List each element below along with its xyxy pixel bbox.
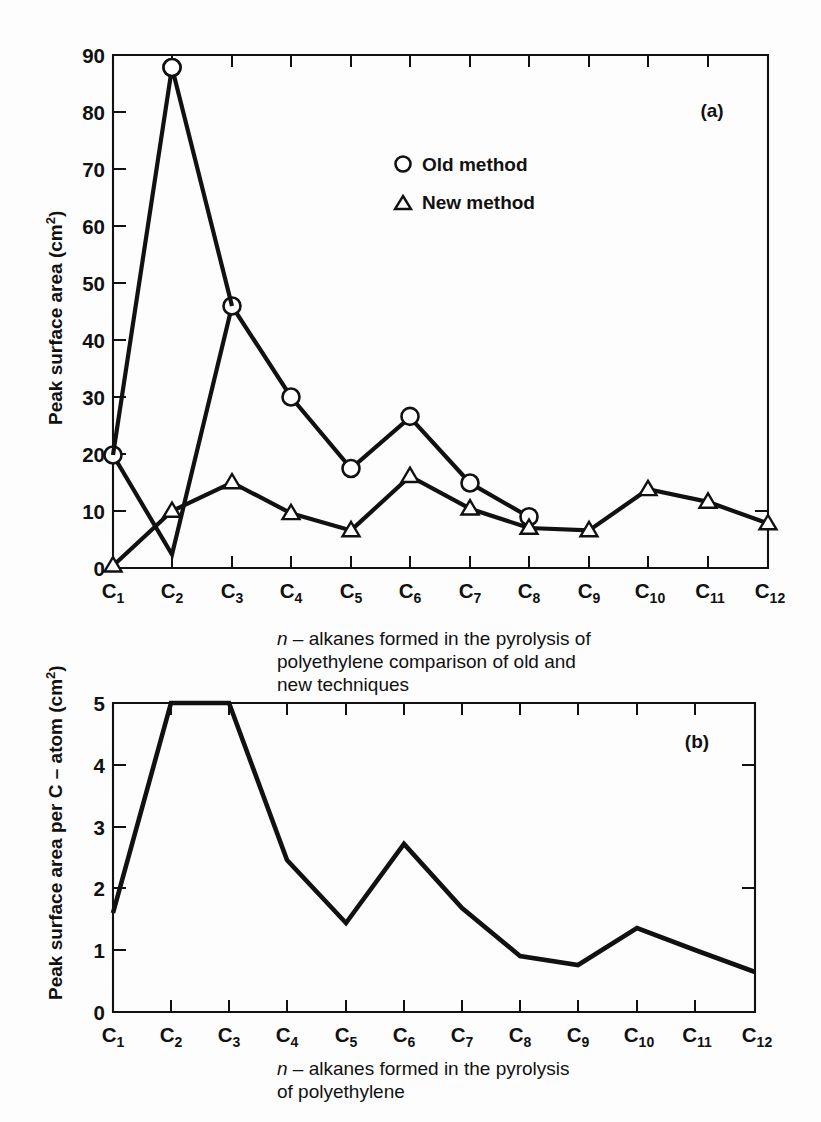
panel-b-y-tick-labels: 0 1 2 3 4 5 [94,692,106,1024]
panel-a-ytick-70: 70 [82,158,105,181]
panel-b-y-ticks [113,703,126,1012]
panel-b-group: 0 1 2 3 4 5 [43,665,772,1102]
panel-b-xtick-c5: C5 [335,1023,358,1050]
panel-b-xtick-c10: C10 [624,1023,655,1050]
panel-b-xtick-c11: C11 [682,1023,712,1050]
panel-a-xtick-c6: C6 [399,579,422,606]
svg-text:n – alkanes formed in the pyro: n – alkanes formed in the pyrolysis of [277,628,591,649]
figure-page: 0 10 20 30 40 50 60 70 80 90 [0,0,821,1122]
panel-a-series-new-method-markers [105,468,777,572]
legend-item-new-method: New method [422,192,535,213]
panel-a-legend: Old method New method [395,154,535,213]
panel-a-ytick-10: 10 [82,500,105,523]
panel-a-ytick-60: 60 [82,215,105,238]
panel-b-x-tick-labels: C1 C2 C3 C4 C5 C6 C7 C8 C9 C10 C11 C12 [102,1023,773,1050]
panel-a-ytick-40: 40 [82,329,105,352]
panel-a-xtick-c10: C10 [635,579,666,606]
triangle-marker [395,196,411,209]
panel-a-xtick-c2: C2 [161,579,184,606]
panel-a-ytick-30: 30 [82,386,105,409]
panel-a-x-ticks-bottom [113,556,768,568]
panel-b-series-line [113,703,755,972]
circle-marker [462,475,479,492]
panel-a-xtick-c4: C4 [280,579,303,606]
triangle-marker [402,468,419,482]
panel-a-xtick-c11: C11 [695,579,725,606]
panel-a-xtick-c9: C9 [578,579,601,606]
panel-a-x-ticks-top [172,55,708,67]
panel-a-caption-line3: new techniques [277,674,409,695]
panel-b-xtick-c2: C2 [160,1023,183,1050]
panel-b-xtick-c1: C1 [102,1023,125,1050]
panel-a-x-tick-labels: C1 C2 C3 C4 C5 C6 C7 C8 C9 C10 C11 C12 [102,579,786,606]
panel-a-series-old-method-peak [113,68,232,456]
panel-a-xtick-c5: C5 [340,579,363,606]
triangle-marker [640,481,657,495]
panel-a-xtick-c12: C12 [755,579,786,606]
figure-container: 0 10 20 30 40 50 60 70 80 90 [0,0,821,1122]
panel-b-label: (b) [685,731,709,752]
figure-svg: 0 10 20 30 40 50 60 70 80 90 [0,0,821,1122]
panel-a-ytick-80: 80 [82,101,105,124]
panel-b-xtick-c12: C12 [742,1023,773,1050]
legend-item-old-method: Old method [422,154,528,175]
panel-a-caption-line2: polyethylene comparison of old and [277,651,576,672]
panel-b-ytick-1: 1 [94,939,105,962]
panel-b-x-ticks-bottom [113,1000,755,1012]
panel-b-axis-frame [113,703,755,1012]
panel-a-xtick-c3: C3 [221,579,244,606]
panel-a-label: (a) [700,100,723,121]
panel-b-x-ticks-top [171,703,695,715]
panel-a-ytick-20: 20 [82,443,105,466]
panel-a-series-old-method-markers [105,59,538,525]
panel-a-xtick-c7: C7 [459,579,482,606]
svg-text:n – alkanes formed in the pyro: n – alkanes formed in the pyrolysis [277,1058,570,1079]
panel-a-series-new-method-line [113,476,768,566]
panel-b-xtick-c3: C3 [218,1023,241,1050]
circle-marker [343,460,360,477]
circle-marker [396,157,411,172]
triangle-marker [224,474,241,488]
panel-a-ytick-50: 50 [82,272,105,295]
panel-b-ytick-2: 2 [94,877,105,900]
panel-b-caption: n – alkanes formed in the pyrolysis of p… [277,1058,570,1102]
panel-b-y-axis-title: Peak surface area per C – atom (cm2) [43,665,66,1000]
panel-a-ytick-90: 90 [82,44,105,67]
panel-a-y-tick-labels: 0 10 20 30 40 50 60 70 80 90 [82,44,105,580]
circle-marker [402,408,419,425]
circle-marker [164,59,181,76]
panel-b-xtick-c9: C9 [567,1023,590,1050]
panel-a-group: 0 10 20 30 40 50 60 70 80 90 [43,44,785,695]
panel-a-xtick-c1: C1 [102,579,125,606]
panel-b-ytick-4: 4 [94,754,106,777]
panel-a-ytick-0: 0 [94,557,105,580]
panel-b-y-ticks-right [742,765,755,888]
panel-b-caption-line2: of polyethylene [277,1081,405,1102]
panel-b-xtick-c7: C7 [451,1023,474,1050]
panel-b-xtick-c6: C6 [393,1023,416,1050]
panel-b-xtick-c4: C4 [276,1023,299,1050]
panel-a-y-axis-title: Peak surface area (cm2) [43,211,66,425]
panel-a-xtick-c8: C8 [518,579,541,606]
circle-marker [283,389,300,406]
panel-a-caption: n – alkanes formed in the pyrolysis of p… [277,628,591,695]
panel-a-y-ticks [113,55,126,568]
panel-b-ytick-3: 3 [94,816,105,839]
panel-b-ytick-0: 0 [94,1001,105,1024]
panel-b-ytick-5: 5 [94,692,105,715]
panel-b-xtick-c8: C8 [509,1023,532,1050]
